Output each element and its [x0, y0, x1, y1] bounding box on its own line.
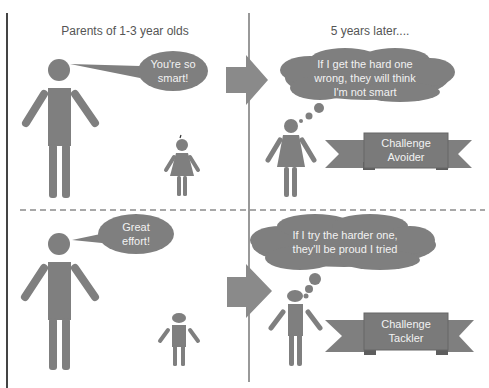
banner-text-avoider: Challenge Avoider	[364, 136, 448, 164]
girl-older-figure	[268, 119, 314, 197]
parent-figure-top	[26, 59, 95, 198]
heading-left: Parents of 1-3 year olds	[30, 24, 220, 38]
parent-figure-bottom	[25, 233, 95, 370]
thought-text-bottom: If I try the harder one, they'll be prou…	[270, 228, 420, 256]
heading-right: 5 years later....	[300, 24, 440, 38]
banner-text-tackler: Challenge Tackler	[364, 317, 448, 345]
speech-text-bottom: Great effort!	[100, 220, 172, 248]
arrow-right-icon	[226, 55, 268, 105]
speech-text-top: You're so smart!	[138, 57, 208, 85]
boy-child-figure	[160, 313, 198, 366]
thought-cloud-bottom	[250, 214, 436, 299]
arrow-right-icon	[227, 264, 272, 318]
thought-text-top: If I get the hard one wrong, they will t…	[295, 57, 435, 99]
girl-child-figure	[166, 135, 198, 196]
boy-older-figure	[271, 290, 320, 366]
